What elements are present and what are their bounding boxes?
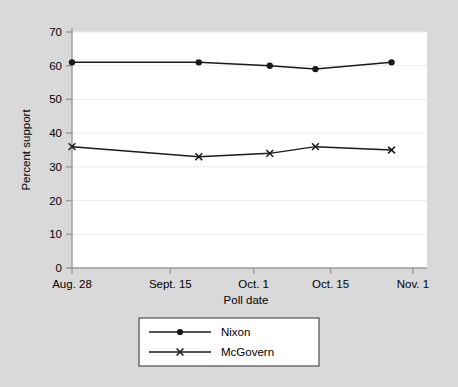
chart-figure-inner: 70 60 50 40 30 20 10 0 Percent support A… xyxy=(8,8,450,379)
y-tick-label-30: 30 xyxy=(49,161,62,173)
x-tick-label-oct-1: Oct. 1 xyxy=(238,278,269,290)
x-tick-label-nov-1: Nov. 1 xyxy=(397,278,429,290)
plot-area-background xyxy=(72,32,427,268)
y-tick-label-20: 20 xyxy=(49,195,62,207)
x-axis-title: Poll date xyxy=(224,294,269,306)
poll-support-line-chart: 70 60 50 40 30 20 10 0 Percent support A… xyxy=(8,8,450,379)
data-point-nixon-2 xyxy=(267,63,273,69)
x-tick-label-sept-15: Sept. 15 xyxy=(149,278,192,290)
data-point-nixon-4 xyxy=(388,59,394,65)
y-axis-title: Percent support xyxy=(20,109,32,191)
legend-label-mcgovern: McGovern xyxy=(221,346,274,358)
legend-label-nixon: Nixon xyxy=(221,326,250,338)
circle-marker-icon xyxy=(177,329,183,335)
x-axis-ticks xyxy=(72,268,413,274)
data-point-nixon-0 xyxy=(69,59,75,65)
y-tick-label-50: 50 xyxy=(49,93,62,105)
y-tick-label-10: 10 xyxy=(49,228,62,240)
x-tick-label-aug-28: Aug. 28 xyxy=(52,278,92,290)
y-tick-label-40: 40 xyxy=(49,127,62,139)
chart-legend: Nixon McGovern xyxy=(139,318,319,366)
data-point-nixon-3 xyxy=(312,66,318,72)
x-tick-label-oct-15: Oct. 15 xyxy=(312,278,349,290)
chart-figure: 70 60 50 40 30 20 10 0 Percent support A… xyxy=(0,0,458,387)
y-tick-label-0: 0 xyxy=(56,262,62,274)
y-tick-label-70: 70 xyxy=(49,26,62,38)
data-point-nixon-1 xyxy=(196,59,202,65)
y-tick-label-60: 60 xyxy=(49,60,62,72)
